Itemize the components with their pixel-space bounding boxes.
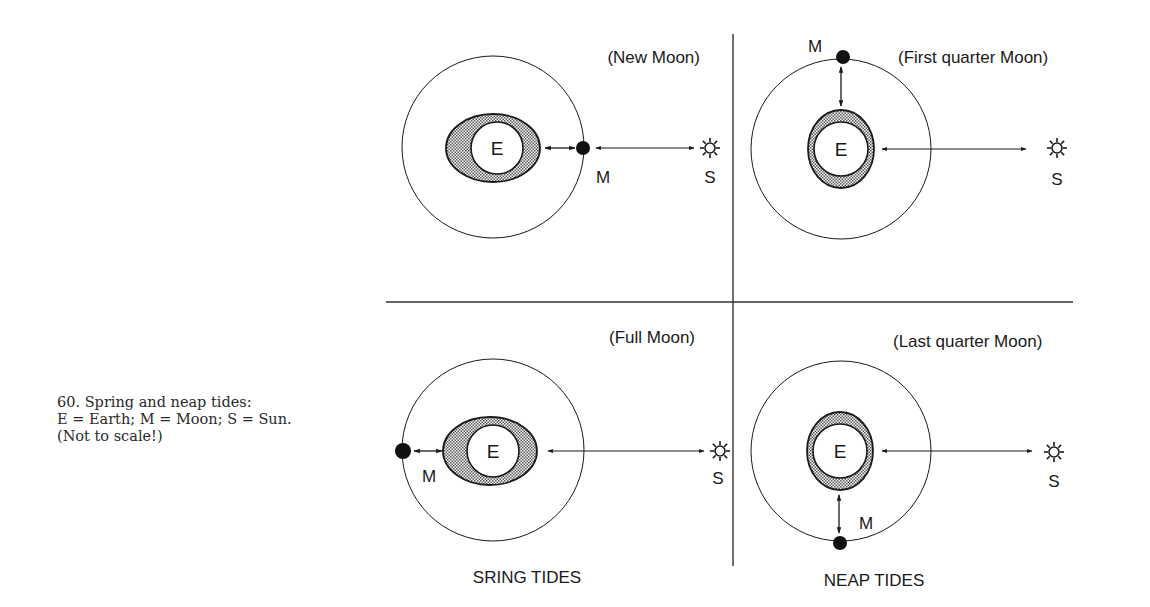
sun-icon [1044, 442, 1064, 462]
moon [836, 50, 850, 64]
panel-title: (Full Moon) [609, 328, 695, 347]
moon [833, 536, 847, 550]
earth-label: E [487, 441, 500, 462]
moon [395, 443, 411, 459]
sun-icon [700, 138, 720, 158]
moon-label: M [808, 37, 822, 56]
tides-diagram: (New Moon) E M S (First quarter Moon) E … [0, 0, 1150, 607]
sun-icon [710, 441, 730, 461]
panel-full-moon: (Full Moon) E M S SRING TIDES [395, 328, 730, 587]
sun-label: S [1051, 170, 1062, 189]
sun-label: S [704, 168, 715, 187]
panel-title: (New Moon) [607, 48, 700, 67]
moon [576, 141, 590, 155]
neap-tides-label: NEAP TIDES [824, 571, 924, 590]
spring-tides-label: SRING TIDES [473, 568, 581, 587]
moon-label: M [422, 467, 436, 486]
earth-label: E [834, 441, 847, 462]
panel-last-quarter: (Last quarter Moon) E M S NEAP TIDES [751, 332, 1064, 590]
panel-title: (Last quarter Moon) [893, 332, 1042, 351]
sun-label: S [1048, 472, 1059, 491]
panel-new-moon: (New Moon) E M S [402, 48, 720, 238]
panel-title: (First quarter Moon) [898, 48, 1048, 67]
sun-label: S [712, 469, 723, 488]
moon-label: M [859, 514, 873, 533]
sun-icon [1047, 138, 1067, 158]
moon-label: M [596, 168, 610, 187]
earth-label: E [491, 138, 504, 159]
earth-label: E [835, 139, 848, 160]
panel-first-quarter: (First quarter Moon) E M S [751, 37, 1067, 239]
